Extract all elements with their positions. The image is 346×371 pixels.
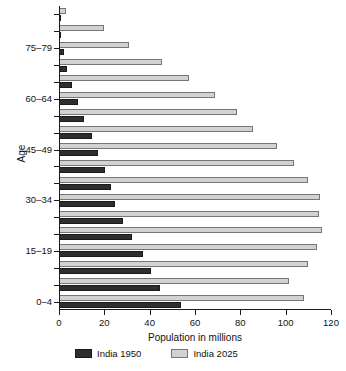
y-axis-tick [54,166,59,167]
bar-india-1950 [59,66,67,72]
bar-india-1950 [59,167,105,173]
bar-group [59,107,331,124]
bar-group [59,242,331,259]
bar-india-2025 [59,244,317,250]
y-axis-tick [54,200,59,201]
x-axis-tick [150,310,151,315]
bar-india-1950 [59,302,181,308]
x-axis-tick [195,310,196,315]
x-axis-tick [104,310,105,315]
x-axis-tick-label: 20 [84,317,124,328]
bar-group [59,293,331,310]
bar-group [59,158,331,175]
bar-group [59,6,331,23]
bar-india-2025 [59,227,322,233]
legend-swatch-dark [75,349,92,358]
legend-item: India 1950 [75,348,141,359]
x-axis-tick-label: 120 [311,317,346,328]
bar-india-2025 [59,211,319,217]
y-axis-tick [54,183,59,184]
bar-india-1950 [59,133,92,139]
legend-label: India 1950 [97,348,141,359]
x-axis-tick [286,310,287,315]
bar-india-2025 [59,278,289,284]
bar-india-1950 [59,184,111,190]
bar-india-2025 [59,126,253,132]
bar-group [59,276,331,293]
y-axis-tick [54,65,59,66]
y-axis-tick [54,116,59,117]
y-axis-tick-label: 45–49 [26,145,52,155]
x-axis-tick-label: 0 [39,317,79,328]
y-axis-tick-label: 15–19 [26,246,52,256]
chart-legend: India 1950India 2025 [59,348,331,359]
bar-group [59,124,331,141]
bar-india-1950 [59,268,151,274]
bar-india-1950 [59,251,143,257]
y-axis-tick [54,302,59,303]
x-axis-tick-label: 100 [266,317,306,328]
bar-india-2025 [59,295,304,301]
bar-india-1950 [59,234,132,240]
bar-group [59,23,331,40]
bar-group [59,74,331,91]
y-axis-tick-label: 0–4 [36,297,52,307]
bar-india-2025 [59,143,277,149]
y-axis-tick [54,268,59,269]
x-axis-tick-label: 80 [220,317,260,328]
bar-india-2025 [59,75,189,81]
y-axis-tick-label: 60–64 [26,94,52,104]
y-axis-title: Age [16,124,27,184]
bar-india-2025 [59,59,162,65]
legend-label: India 2025 [193,348,237,359]
bar-group [59,259,331,276]
bar-india-1950 [59,201,115,207]
y-axis-tick [54,234,59,235]
y-axis-line [59,6,60,310]
x-axis-tick [331,310,332,315]
bar-group [59,57,331,74]
bar-india-2025 [59,160,294,166]
y-axis-tick [54,251,59,252]
bar-india-1950 [59,285,160,291]
bar-india-2025 [59,92,215,98]
bar-india-2025 [59,194,320,200]
bar-india-1950 [59,116,84,122]
y-axis-tick-label: 75–79 [26,43,52,53]
x-axis-tick-label: 40 [130,317,170,328]
bar-group [59,40,331,57]
y-axis-tick [54,285,59,286]
bar-india-1950 [59,82,72,88]
y-axis-tick [54,31,59,32]
population-pyramid-chart: 75–7960–6445–4930–3415–190–4 02040608010… [0,0,346,371]
x-axis-tick [59,310,60,315]
bar-india-1950 [59,150,98,156]
x-axis-tick-label: 60 [175,317,215,328]
bar-group [59,175,331,192]
bar-group [59,209,331,226]
bar-group [59,141,331,158]
x-axis-title: Population in millions [59,332,331,343]
legend-swatch-light [171,349,188,358]
y-axis-tick-label: 30–34 [26,195,52,205]
bar-india-1950 [59,99,78,105]
bar-india-2025 [59,42,129,48]
legend-item: India 2025 [171,348,237,359]
bar-india-2025 [59,8,66,14]
bar-india-2025 [59,177,308,183]
bar-group [59,226,331,243]
y-axis-tick [54,82,59,83]
bar-india-2025 [59,261,308,267]
y-axis-tick [54,48,59,49]
plot-area [59,6,331,310]
bar-india-2025 [59,109,237,115]
bar-india-1950 [59,218,123,224]
y-axis-tick [54,150,59,151]
y-axis-tick [54,14,59,15]
bar-india-2025 [59,25,104,31]
bar-group [59,192,331,209]
y-axis-tick [54,217,59,218]
bar-group [59,90,331,107]
y-axis-tick [54,99,59,100]
x-axis-tick [240,310,241,315]
